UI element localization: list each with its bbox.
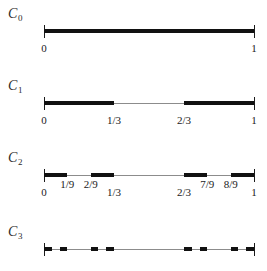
stage-label-c1-letter: C [8, 78, 18, 93]
stage-label-c3-subscript: 3 [18, 231, 23, 241]
interval-segment [200, 247, 208, 251]
tick-label: 1 [251, 187, 257, 198]
tick-label: 1 [251, 43, 257, 54]
tick-label: 1/3 [107, 187, 121, 198]
stage-label-c1-subscript: 1 [18, 85, 23, 95]
stage-row-c1: C1 01/32/31 [0, 78, 267, 138]
baseline-c2 [44, 175, 255, 176]
tick-label: 1/9 [60, 179, 74, 190]
stage-row-c2: C2 01/92/91/32/37/98/91 [0, 150, 267, 210]
axis-c1: 01/32/31 [44, 103, 255, 104]
tick-label: 2/3 [177, 115, 191, 126]
interval-segment [106, 247, 114, 251]
axis-c3 [44, 249, 255, 250]
interval-segment [44, 247, 52, 251]
interval-segment [184, 247, 192, 251]
tick-mark-c3-end [254, 243, 255, 256]
tick-mark-c2-end [254, 169, 255, 182]
stage-label-c2-letter: C [8, 150, 18, 165]
interval-segment [44, 101, 114, 105]
interval-segment [231, 247, 239, 251]
stage-label-c2: C2 [8, 150, 22, 166]
stage-label-c0: C0 [8, 6, 22, 22]
interval-segment [231, 173, 254, 177]
stage-label-c0-subscript: 0 [18, 13, 23, 23]
tick-label: 7/9 [200, 179, 214, 190]
tick-mark-c1-end [254, 97, 255, 110]
tick-label: 2/9 [84, 179, 98, 190]
cantor-set-figure: C0 01 C1 01/32/31 C2 [0, 0, 267, 271]
interval-segment [44, 173, 67, 177]
tick-label: 2/3 [177, 187, 191, 198]
stage-row-c0: C0 01 [0, 6, 267, 66]
tick-label: 8/9 [224, 179, 238, 190]
stage-row-c3: C3 [0, 224, 267, 271]
interval-segment [246, 247, 254, 251]
tick-mark-c0-end [254, 25, 255, 38]
interval-segment [60, 247, 68, 251]
axis-c2: 01/92/91/32/37/98/91 [44, 175, 255, 176]
stage-label-c3-letter: C [8, 224, 18, 239]
stage-label-c0-letter: C [8, 6, 18, 21]
baseline-c3 [44, 249, 255, 250]
interval-segment [44, 29, 254, 33]
interval-segment [91, 247, 99, 251]
axis-c0: 01 [44, 31, 255, 32]
stage-label-c2-subscript: 2 [18, 157, 23, 167]
interval-segment [91, 173, 114, 177]
tick-label: 1 [251, 115, 257, 126]
stage-label-c1: C1 [8, 78, 22, 94]
interval-segment [184, 101, 254, 105]
interval-segment [184, 173, 207, 177]
tick-label: 0 [41, 187, 47, 198]
stage-label-c3: C3 [8, 224, 22, 240]
tick-label: 0 [41, 115, 47, 126]
tick-label: 1/3 [107, 115, 121, 126]
tick-label: 0 [41, 43, 47, 54]
